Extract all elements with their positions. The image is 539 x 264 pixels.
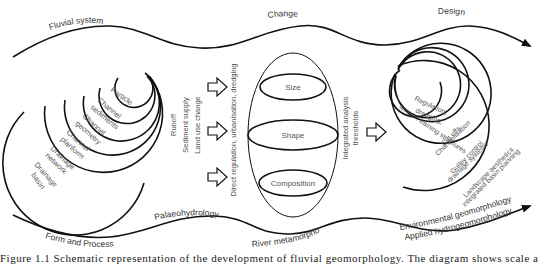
label-land-use-change: Land use change: [193, 96, 202, 154]
top-flow-line: [13, 26, 530, 57]
drivers: Runoff Sediment supply Land use change D…: [169, 64, 238, 197]
caption-text: Figure 1.1 Schematic representation of t…: [0, 254, 539, 264]
block-arrow-icon: [367, 123, 386, 141]
label-design: Design: [438, 6, 467, 18]
ring-landscape: [398, 61, 489, 191]
label-palaeohydrology: Palaeohydrology: [153, 207, 220, 222]
label-runoff: Runoff: [169, 113, 178, 136]
label-size: Size: [285, 83, 301, 92]
label-thresholds: thresholds: [351, 110, 360, 145]
right-spiral-labels: Regulation, dredging, levees, training s…: [398, 95, 522, 209]
block-arrow-icon: [208, 78, 227, 96]
input-arrows: [208, 78, 227, 186]
analysis: Integrated analysis thresholds: [341, 96, 360, 159]
block-arrow-icon: [208, 122, 227, 140]
label-shape: Shape: [281, 131, 305, 140]
label-direct-regulation: Direct regulation, urbanisation, dredgin…: [229, 64, 238, 197]
label-integrated-analysis: Integrated analysis: [341, 96, 350, 159]
block-arrow-icon: [208, 168, 227, 186]
label-sediment-supply: Sediment supply: [181, 97, 190, 153]
figure-caption-clipped: Figure 1.1 Schematic representation of t…: [0, 254, 539, 264]
label-form-and-process: Form and Process: [45, 230, 115, 249]
label-composition: Composition: [271, 179, 315, 188]
label-change: Change: [267, 8, 299, 20]
